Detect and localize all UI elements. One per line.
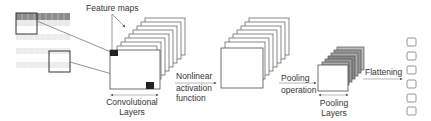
pooling-layers-label-line1: Pooling <box>316 98 352 108</box>
conv-layer-stack <box>110 18 185 89</box>
pooling-operation-label-line2: operation <box>281 85 316 95</box>
pooling-operation-label-line1: Pooling <box>281 73 316 83</box>
output-node <box>407 94 416 102</box>
nonlinear-label: Nonlinear activation function <box>176 71 212 103</box>
nonlinear-label-line1: Nonlinear <box>176 71 212 81</box>
input-image <box>16 13 70 72</box>
flattened-output-nodes <box>407 38 416 115</box>
conv-layers-label: Convolutional Layers <box>106 97 158 117</box>
output-node <box>407 52 416 60</box>
output-node <box>407 80 416 88</box>
feature-maps-label: Feature maps <box>86 3 138 13</box>
flattening-label: Flattening <box>365 67 402 77</box>
pooling-stack <box>318 47 364 91</box>
pooling-layers-label: Pooling Layers <box>316 98 352 118</box>
output-node <box>407 38 416 46</box>
pooling-operation-label: Pooling operation <box>281 73 316 95</box>
feature-maps-pointer-2 <box>112 14 125 27</box>
kernel-output-1 <box>110 50 118 56</box>
activation-stack <box>221 18 289 88</box>
nonlinear-label-line3: function <box>176 93 212 103</box>
pooling-layers-label-line2: Layers <box>316 108 352 118</box>
cnn-diagram <box>0 0 431 121</box>
nonlinear-label-line2: activation <box>176 83 212 93</box>
kernel-output-2 <box>146 82 154 89</box>
conv-layers-label-line2: Layers <box>106 107 158 117</box>
conv-layers-label-line1: Convolutional <box>106 97 158 107</box>
output-node <box>407 107 416 115</box>
output-node <box>407 66 416 74</box>
